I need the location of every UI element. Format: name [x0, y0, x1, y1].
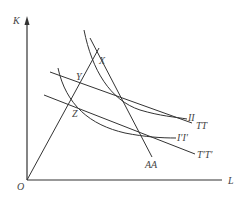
k-axis-arrow-icon — [25, 16, 30, 25]
expansion-ray — [27, 48, 99, 180]
origin-label: O — [17, 181, 24, 192]
point-y-label: Y — [76, 71, 83, 82]
i2-label: I′I′ — [176, 132, 189, 143]
point-z-label: Z — [72, 108, 78, 119]
point-x-label: X — [98, 55, 106, 66]
aa-label: AA — [144, 159, 158, 170]
ii-label: II — [187, 112, 195, 123]
k-axis-label: K — [12, 15, 21, 26]
l-axis-label: L — [227, 175, 234, 186]
ii-isoquant — [84, 30, 187, 119]
t2-line — [44, 95, 195, 154]
t2-label: T′T′ — [197, 149, 213, 160]
tt-label: TT — [196, 120, 209, 131]
production-diagram: K L O X Y Z II I′I′ TT T′T′ AA — [0, 0, 246, 200]
